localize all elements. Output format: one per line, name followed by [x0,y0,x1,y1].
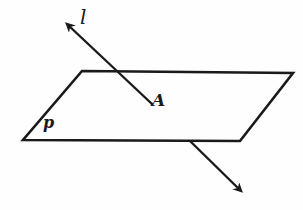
line-l-lower-segment [190,141,240,190]
diagram-canvas: l A p [0,0,303,210]
line-l-upper-segment [68,25,152,104]
line-label-l: l [80,7,86,27]
point-label-a: A [152,92,165,109]
plane-label-p: p [43,115,54,131]
